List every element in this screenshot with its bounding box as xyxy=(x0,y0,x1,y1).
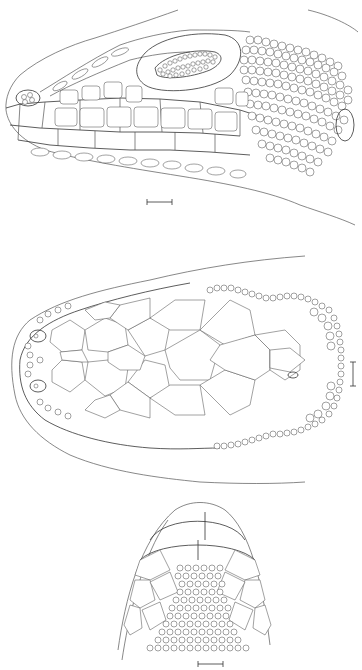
figure-plate xyxy=(0,0,362,670)
ear-opening xyxy=(336,109,354,141)
scale-bar-lateral xyxy=(147,199,172,205)
lateral-view-panel xyxy=(6,10,358,225)
scale-bar-ventral xyxy=(198,661,223,667)
scale-bar-dorsal xyxy=(350,362,356,386)
ventral-view-panel xyxy=(118,503,271,668)
eye-region xyxy=(137,34,241,91)
nostril-right xyxy=(30,380,46,392)
lizard-head-illustration xyxy=(0,0,362,670)
dorsal-view-panel xyxy=(12,256,356,484)
